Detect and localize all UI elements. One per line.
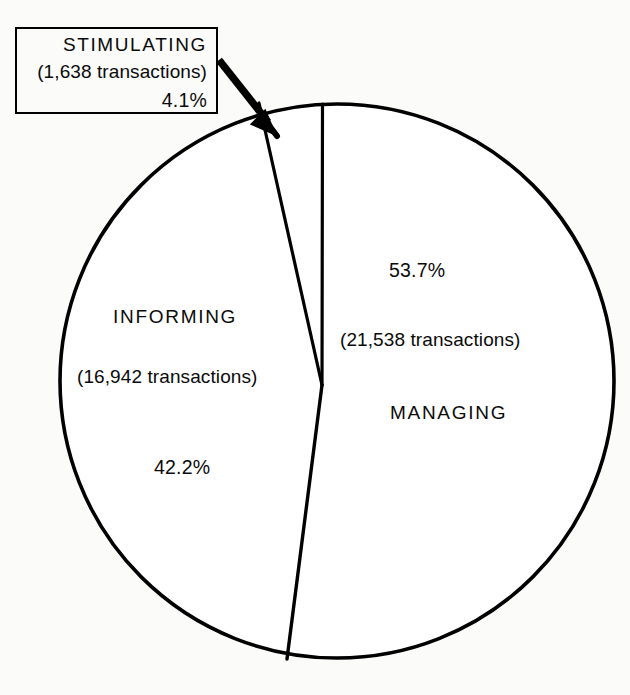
- managing-percent-label: 53.7%: [389, 259, 445, 282]
- stimulating-count-label: (1,638 transactions): [23, 58, 207, 86]
- informing-name-label: INFORMING: [113, 306, 237, 328]
- stimulating-callout-box: STIMULATING (1,638 transactions) 4.1%: [15, 27, 218, 114]
- stimulating-percent-label: 4.1%: [23, 86, 207, 115]
- managing-count-label: (21,538 transactions): [340, 329, 520, 351]
- pie-chart: 53.7% (21,538 transactions) MANAGING INF…: [0, 0, 630, 695]
- stimulating-name-label: STIMULATING: [23, 32, 207, 58]
- slice-divider-managing-stimulating: [322, 104, 323, 385]
- managing-name-label: MANAGING: [390, 402, 507, 424]
- informing-count-label: (16,942 transactions): [77, 366, 257, 388]
- informing-percent-label: 42.2%: [154, 456, 210, 479]
